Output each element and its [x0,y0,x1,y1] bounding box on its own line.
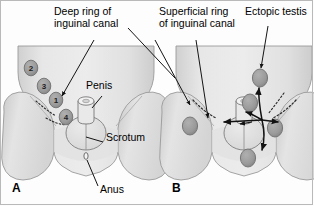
anatomy-illustration [0,0,314,206]
ectopic-testis-suprapubic [242,94,257,112]
descent-station-label-1: 1 [50,93,63,108]
ectopic-testis-label: Ectopic testis [245,6,307,18]
figure-container: Deep ring of inguinal canal Penis Scrotu… [0,0,314,206]
superficial-ring-label: Superficial ring of inguinal canal [159,6,235,29]
descent-station-label-2: 2 [25,61,38,76]
penis-label: Penis [86,80,112,92]
anus-label: Anus [100,184,124,196]
ectopic-testis-femoral-left [182,117,197,135]
panel-a-letter: A [12,181,21,195]
scrotum-label: Scrotum [106,132,145,144]
ectopic-testis-perineal [240,149,255,167]
panel-b-letter: B [172,181,181,195]
ectopic-testis-abdominal [252,69,267,87]
panel-b-body [160,46,314,180]
descent-station-label-3: 3 [38,79,51,94]
descent-station-label-4: 4 [60,110,73,125]
deep-ring-label: Deep ring of inguinal canal [54,6,118,29]
